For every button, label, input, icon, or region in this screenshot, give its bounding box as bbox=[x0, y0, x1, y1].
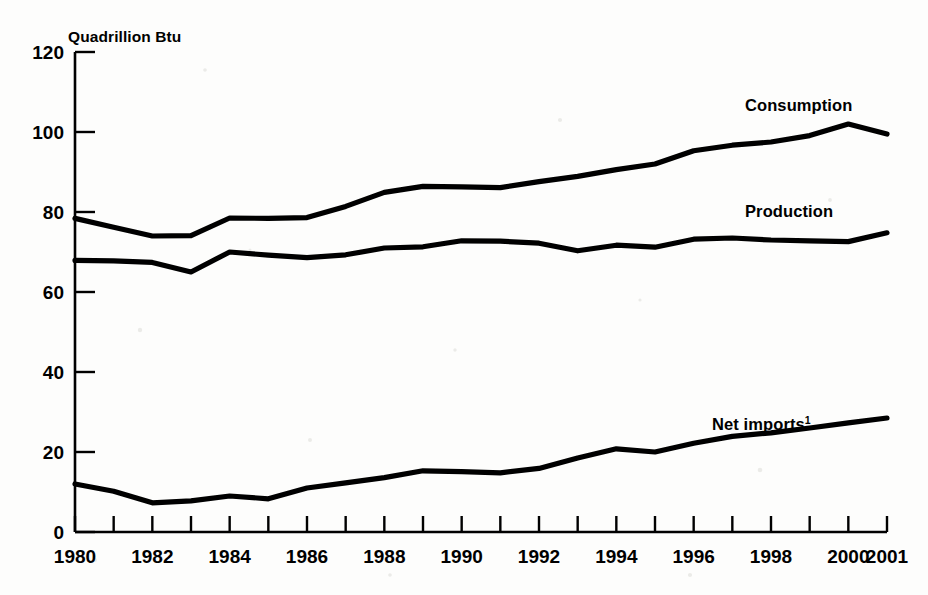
x-tick-label-1990: 1990 bbox=[441, 546, 483, 567]
x-tick-label-1986: 1986 bbox=[286, 546, 328, 567]
x-axis-tick-labels: 1980198219841986198819901992199419961998… bbox=[54, 546, 909, 567]
chart-canvas: Quadrillion Btu 020406080100120 19801982… bbox=[0, 0, 928, 595]
x-tick-label-1988: 1988 bbox=[363, 546, 405, 567]
y-tick-label-20: 20 bbox=[43, 442, 64, 463]
y-tick-label-0: 0 bbox=[53, 522, 64, 543]
x-tick-label-1994: 1994 bbox=[595, 546, 638, 567]
x-tick-label-1992: 1992 bbox=[518, 546, 560, 567]
y-tick-label-40: 40 bbox=[43, 362, 64, 383]
x-tick-label-1996: 1996 bbox=[673, 546, 715, 567]
x-axis-ticks bbox=[75, 516, 887, 532]
x-tick-label-1984: 1984 bbox=[209, 546, 252, 567]
series-label-production: Production bbox=[745, 202, 833, 220]
series-label-net-imports-footnote: 1 bbox=[805, 414, 811, 426]
series-label-consumption: Consumption bbox=[745, 96, 852, 114]
series-line-production bbox=[75, 233, 887, 272]
x-tick-label-1982: 1982 bbox=[131, 546, 173, 567]
x-tick-label-1998: 1998 bbox=[750, 546, 792, 567]
energy-overview-chart: Quadrillion Btu 020406080100120 19801982… bbox=[0, 0, 928, 595]
y-tick-label-80: 80 bbox=[43, 202, 64, 223]
data-series-group bbox=[75, 124, 887, 503]
x-tick-label-1980: 1980 bbox=[54, 546, 96, 567]
y-tick-label-100: 100 bbox=[32, 122, 64, 143]
y-tick-label-120: 120 bbox=[32, 42, 64, 63]
y-axis-tick-labels: 020406080100120 bbox=[32, 42, 64, 543]
x-tick-label-2000: 2000 bbox=[827, 546, 869, 567]
series-label-net-imports-text: Net imports bbox=[712, 415, 805, 433]
y-axis-unit-label: Quadrillion Btu bbox=[68, 28, 181, 45]
series-label-net-imports: Net imports1 bbox=[712, 414, 811, 433]
x-tick-label-2001: 2001 bbox=[866, 546, 909, 567]
y-tick-label-60: 60 bbox=[43, 282, 64, 303]
y-axis-ticks bbox=[75, 52, 95, 532]
